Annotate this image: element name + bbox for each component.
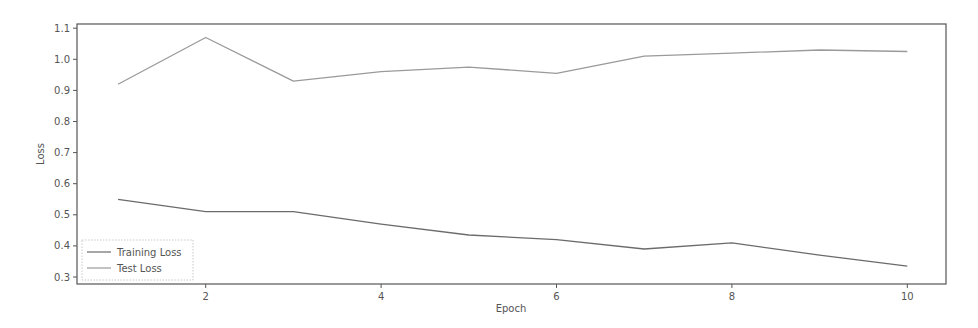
- x-tick-label: 4: [378, 291, 384, 302]
- y-tick-label: 0.7: [54, 147, 70, 158]
- y-tick-label: 0.6: [54, 178, 70, 189]
- training-loss-line: [118, 199, 907, 266]
- legend-box: [82, 240, 193, 280]
- x-tick-label: 6: [553, 291, 559, 302]
- y-tick-label: 0.4: [54, 240, 70, 251]
- legend: Training Loss Test Loss: [82, 240, 193, 280]
- loss-chart: 0.30.40.50.60.70.80.91.01.1 246810 Epoch…: [0, 0, 978, 328]
- y-tick-label: 0.9: [54, 85, 70, 96]
- x-axis: 246810: [203, 284, 914, 302]
- x-tick-label: 8: [729, 291, 735, 302]
- legend-label-test: Test Loss: [116, 263, 162, 274]
- y-axis: 0.30.40.50.60.70.80.91.01.1: [54, 23, 77, 283]
- legend-label-training: Training Loss: [116, 247, 182, 258]
- test-loss-line: [118, 38, 907, 85]
- y-tick-label: 0.5: [54, 209, 70, 220]
- x-tick-label: 10: [901, 291, 914, 302]
- y-axis-label: Loss: [35, 143, 46, 165]
- series-lines: [118, 38, 907, 267]
- x-axis-label: Epoch: [496, 303, 527, 314]
- x-tick-label: 2: [203, 291, 209, 302]
- y-tick-label: 1.0: [54, 54, 70, 65]
- axes-frame: [77, 24, 946, 284]
- y-tick-label: 0.8: [54, 116, 70, 127]
- y-tick-label: 1.1: [54, 23, 70, 34]
- y-tick-label: 0.3: [54, 272, 70, 283]
